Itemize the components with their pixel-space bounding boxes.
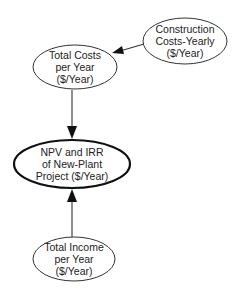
label-construction-costs: Construction Costs-Yearly ($/Year) bbox=[155, 23, 214, 59]
arrowhead-icon bbox=[112, 46, 124, 54]
label-line: Costs-Yearly bbox=[155, 35, 214, 47]
label-line: ($/Year) bbox=[44, 265, 104, 277]
edge-total-income-to-npv bbox=[67, 189, 77, 237]
label-line: ($/Year) bbox=[155, 47, 214, 59]
arrowhead-icon bbox=[67, 189, 77, 202]
label-line: NPV and IRR bbox=[36, 146, 109, 158]
label-total-income: Total Income per Year ($/Year) bbox=[44, 241, 104, 277]
edge-total-costs-to-npv bbox=[67, 90, 77, 139]
label-npv-irr: NPV and IRR of New-Plant Project ($/Year… bbox=[36, 146, 109, 182]
label-line: ($/Year) bbox=[49, 73, 101, 85]
arrowhead-icon bbox=[67, 126, 77, 139]
label-line: Project ($/Year) bbox=[36, 170, 109, 182]
label-line: Construction bbox=[155, 23, 214, 35]
label-line: Total Costs bbox=[49, 49, 101, 61]
label-line: per Year bbox=[49, 61, 101, 73]
label-line: per Year bbox=[44, 253, 104, 265]
label-total-costs: Total Costs per Year ($/Year) bbox=[49, 49, 101, 85]
label-line: of New-Plant bbox=[36, 158, 109, 170]
label-line: Total Income bbox=[44, 241, 104, 253]
edge-construction-to-total-costs bbox=[112, 44, 144, 54]
